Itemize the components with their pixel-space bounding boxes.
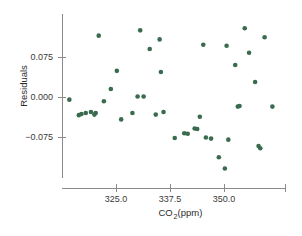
data-point [138,28,143,33]
data-point [270,104,275,109]
data-point [77,113,82,118]
data-point [224,44,229,49]
data-point [185,132,190,137]
data-point [115,69,120,74]
data-point [109,87,114,92]
x-axis-tick-label: 337.5 [159,194,182,204]
data-point [195,127,200,132]
data-point [209,136,214,141]
data-point [67,97,72,102]
data-point [223,166,228,171]
y-axis-tick-label: −0.075 [25,132,53,142]
data-point [217,155,222,160]
x-axis-tick-label: 325.0 [105,194,128,204]
x-axis-title: CO2(ppm) [159,207,203,220]
data-point [201,42,206,47]
data-point [157,37,162,42]
data-point [119,117,124,122]
y-axis-tick-label: 0.075 [30,52,53,62]
data-point [130,111,135,116]
data-point-group [67,26,275,171]
y-axis-tick-label: 0.000 [30,92,53,102]
data-point [247,50,252,55]
data-point [96,33,101,38]
data-point [135,94,140,99]
data-point [92,112,97,117]
data-point [226,137,231,142]
svg-text:CO: CO [159,207,173,218]
data-point [262,35,267,40]
x-axis-tick-label: 350.0 [213,194,236,204]
data-point [198,114,203,119]
data-point [102,99,107,104]
data-point [147,47,152,52]
y-axis-title: Residuals [18,65,29,107]
data-point [242,26,247,31]
svg-text:(ppm): (ppm) [178,207,203,218]
data-point [153,112,158,117]
data-point [83,111,88,116]
data-point [253,80,258,85]
data-point [159,70,164,75]
data-point [161,110,166,115]
data-point [233,63,238,68]
scatter-plot-svg: 0.0750.000−0.075325.0337.5350.0CO2(ppm)R… [0,0,302,236]
data-point [172,136,177,141]
data-point [236,104,241,109]
data-point [141,94,146,99]
data-point [258,146,263,151]
scatter-chart-figure: 0.0750.000−0.075325.0337.5350.0CO2(ppm)R… [0,0,302,236]
data-point [204,135,209,140]
